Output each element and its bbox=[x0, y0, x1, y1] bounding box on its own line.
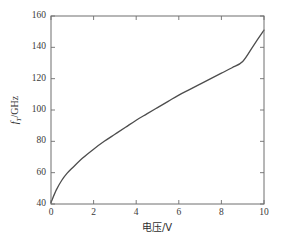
x-tick-label: 6 bbox=[176, 208, 181, 218]
y-tick-label: 160 bbox=[0, 11, 46, 21]
x-tick-label: 4 bbox=[134, 208, 139, 218]
figure-container: 电压/V fT/GHz 0246810406080100120140160 bbox=[0, 0, 283, 240]
y-tick-label: 120 bbox=[0, 74, 46, 84]
x-tick-label: 0 bbox=[49, 208, 54, 218]
y-tick-label: 40 bbox=[0, 199, 46, 209]
y-axis-symbol: f bbox=[9, 121, 20, 124]
x-axis-label: 电压/V bbox=[142, 219, 172, 234]
y-tick-label: 80 bbox=[0, 137, 46, 147]
plot-area-background bbox=[51, 16, 264, 204]
y-tick-label: 60 bbox=[0, 168, 46, 178]
x-tick-label: 10 bbox=[259, 208, 269, 218]
x-axis-label-text: 电压/V bbox=[142, 222, 172, 233]
x-tick-label: 8 bbox=[219, 208, 224, 218]
y-axis-subscript: T bbox=[15, 117, 23, 121]
y-tick-label: 100 bbox=[0, 105, 46, 115]
y-tick-label: 140 bbox=[0, 43, 46, 53]
x-tick-label: 2 bbox=[91, 208, 96, 218]
